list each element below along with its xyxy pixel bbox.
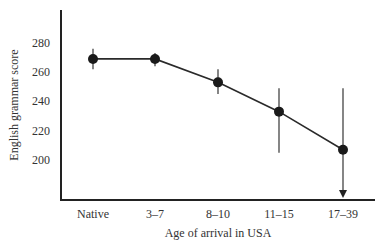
data-point	[213, 77, 223, 87]
y-tick-label: 280	[32, 36, 50, 50]
y-tick-label: 200	[32, 153, 50, 167]
y-tick-labels: 200220240260280	[32, 36, 50, 167]
y-tick-label: 220	[32, 124, 50, 138]
data-point	[150, 54, 160, 64]
data-point	[338, 145, 348, 155]
x-tick-label: Native	[77, 207, 109, 221]
y-tick-label: 260	[32, 65, 50, 79]
x-tick-labels: Native3–78–1011–1517–39	[77, 207, 358, 221]
data-point	[274, 107, 284, 117]
data-markers	[88, 54, 348, 155]
data-point	[88, 54, 98, 64]
y-axis-title: English grammar score	[7, 49, 21, 160]
axes	[60, 10, 375, 201]
y-tick-label: 240	[32, 94, 50, 108]
x-tick-label: 3–7	[146, 207, 164, 221]
x-tick-label: 11–15	[264, 207, 294, 221]
arrow-down-icon	[339, 190, 347, 198]
x-tick-label: 8–10	[206, 207, 230, 221]
line-chart: 200220240260280 Native3–78–1011–1517–39 …	[0, 0, 387, 250]
error-bars	[93, 49, 347, 198]
x-tick-label: 17–39	[328, 207, 358, 221]
x-axis-title: Age of arrival in USA	[165, 226, 272, 240]
